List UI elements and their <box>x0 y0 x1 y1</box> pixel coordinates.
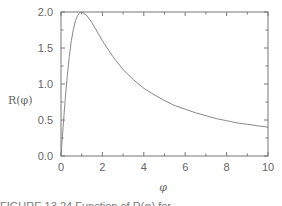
x-axis-label: φ <box>159 181 167 194</box>
x-tick-label: 10 <box>262 161 274 173</box>
plot-frame <box>61 12 268 156</box>
x-tick-label: 2 <box>99 161 105 173</box>
y-tick-label: 0.5 <box>38 114 53 126</box>
y-axis-label: R(φ) <box>8 94 33 107</box>
y-ticks: 0.00.51.01.52.0 <box>38 6 268 162</box>
y-tick-label: 1.5 <box>38 42 53 54</box>
chart: 0246810 0.00.51.01.52.0 R(φ) φ <box>0 0 282 206</box>
x-tick-label: 8 <box>224 161 230 173</box>
y-tick-label: 1.0 <box>38 78 53 90</box>
x-tick-label: 0 <box>58 161 64 173</box>
figure-caption: FIGURE 13.24 Function of R(φ) for... <box>0 201 282 206</box>
y-tick-label: 2.0 <box>38 6 53 18</box>
x-tick-label: 4 <box>141 161 147 173</box>
x-ticks: 0246810 <box>58 12 274 173</box>
y-tick-label: 0.0 <box>38 150 53 162</box>
x-tick-label: 6 <box>182 161 188 173</box>
data-series-line <box>61 12 268 156</box>
